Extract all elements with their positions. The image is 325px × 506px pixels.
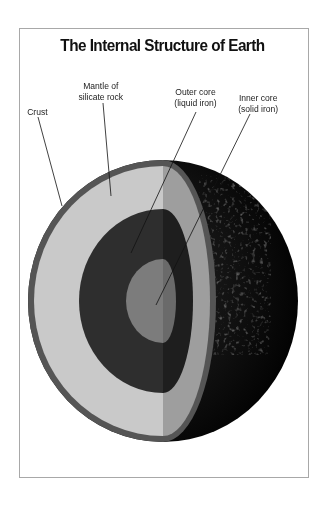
- earth-cutaway-diagram: [0, 0, 325, 506]
- leader-crust: [38, 117, 62, 206]
